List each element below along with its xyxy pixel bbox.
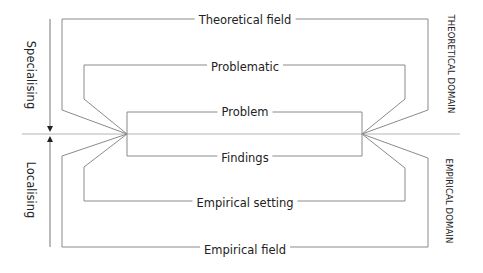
research-funnel-diagram: Theoretical field Problematic Problem Fi… [0,0,483,273]
specialising-label: Specialising [24,40,38,110]
empirical-domain-label: EMPIRICAL DOMAIN [444,141,454,261]
problem-label: Problem [217,105,272,119]
empirical-setting-outline [84,134,405,201]
localising-arrowhead-icon [47,136,53,142]
findings-label: Findings [217,151,272,165]
localising-label: Localising [24,155,38,225]
theoretical-field-label: Theoretical field [195,13,296,27]
problematic-outline [84,65,405,134]
problematic-label: Problematic [207,60,283,74]
specialising-arrowhead-icon [47,126,53,132]
empirical-field-label: Empirical field [200,243,290,257]
diagram-canvas [0,0,483,273]
empirical-setting-label: Empirical setting [193,196,298,210]
theoretical-domain-label: THEORETICAL DOMAIN [446,4,456,124]
